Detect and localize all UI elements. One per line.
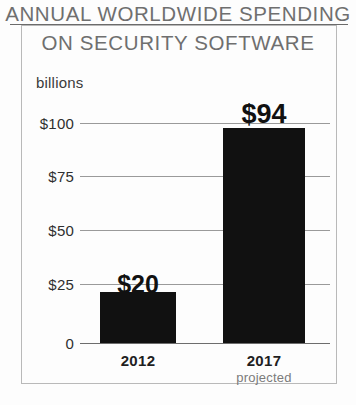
plot-area: $100 $75 $50 $25 0 $20 $94 2012 2017 pro… (0, 0, 356, 405)
x-category-label-2012: 2012 (121, 352, 156, 369)
y-tick-label-50: $50 (14, 222, 74, 239)
chart-figure: ANNUAL WORLDWIDE SPENDING ON SECURITY SO… (0, 0, 356, 405)
x-category-name-2017: 2017 (236, 352, 291, 369)
bar-2012 (100, 292, 176, 343)
value-label-2017: $94 (241, 99, 286, 130)
x-category-name-2012: 2012 (121, 352, 156, 369)
y-tick-label-100: $100 (14, 115, 74, 132)
y-tick-label-0: 0 (14, 335, 74, 352)
value-label-2012: $20 (117, 270, 159, 299)
x-category-label-2017: 2017 projected (236, 352, 291, 385)
bar-2017 (223, 128, 305, 343)
y-tick-label-25: $25 (14, 276, 74, 293)
x-axis-line (80, 343, 330, 344)
y-tick-label-75: $75 (14, 168, 74, 185)
x-category-note-2017: projected (236, 370, 291, 385)
gridline-100 (80, 123, 330, 124)
